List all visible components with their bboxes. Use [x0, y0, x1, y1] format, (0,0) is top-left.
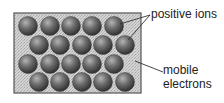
positive-ion: [62, 17, 81, 36]
positive-ion: [116, 73, 135, 92]
positive-ion: [41, 17, 60, 36]
positive-ion: [19, 55, 38, 74]
label-mobile: mobile: [163, 64, 198, 77]
positive-ion: [94, 36, 113, 55]
positive-ion: [30, 36, 49, 55]
positive-ion: [83, 17, 102, 36]
positive-ion: [51, 36, 70, 55]
label-positive-ions: positive ions: [151, 8, 217, 21]
positive-ion: [73, 73, 92, 92]
positive-ion: [19, 17, 38, 36]
positive-ion: [105, 17, 124, 36]
label-electrons: electrons: [163, 78, 212, 91]
positive-ion: [83, 55, 102, 74]
positive-ion: [73, 36, 92, 55]
positive-ion: [94, 73, 113, 92]
positive-ion: [51, 73, 70, 92]
positive-ion: [116, 36, 135, 55]
positive-ion: [41, 55, 60, 74]
positive-ion: [62, 55, 81, 74]
positive-ion: [30, 73, 49, 92]
positive-ion: [105, 55, 124, 74]
